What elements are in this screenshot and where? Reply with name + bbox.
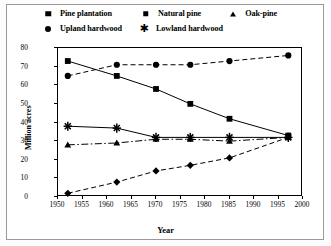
x-tick-label: 1990 [246,200,261,209]
y-tick-label: 40 [0,117,28,126]
y-tick-label: 10 [0,173,28,182]
y-tick-mark [54,140,57,141]
x-tick-label: 1985 [221,200,236,209]
x-tick-mark [229,196,230,199]
legend-marker-circle-icon [38,23,58,34]
x-tick-label: 1965 [123,200,138,209]
series-canvas [58,48,303,197]
legend-item-natural-pine[interactable]: Natural pine [136,8,201,19]
y-tick-mark [54,103,57,104]
x-tick-mark [57,196,58,199]
plot-area [57,47,302,196]
series-oak-pine [64,134,291,147]
x-tick-label: 1955 [74,200,89,209]
y-tick-mark [54,159,57,160]
legend-label-natural-pine: Natural pine [158,9,201,18]
legend-label-pine-plantation: Pine plantation [60,9,112,18]
legend-row-2: Upland hardwood ✱ Lowland hardwood [8,21,308,36]
legend-marker-triangle-icon [223,8,243,19]
x-tick-mark [106,196,107,199]
x-tick-mark [82,196,83,199]
x-tick-label: 1950 [50,200,65,209]
legend-item-pine-plantation[interactable]: Pine plantation [38,8,112,19]
y-tick-mark [54,66,57,67]
legend-label-upland-hardwood: Upland hardwood [60,24,122,33]
y-tick-label: 70 [0,61,28,70]
legend-item-lowland-hardwood[interactable]: ✱ Lowland hardwood [134,23,223,34]
x-tick-mark [131,196,132,199]
legend-marker-star-icon: ✱ [134,23,154,34]
legend-row-1: Pine plantation Natural pine Oak-pine [8,6,308,21]
y-tick-mark [54,47,57,48]
x-tick-mark [180,196,181,199]
y-tick-label: 30 [0,136,28,145]
x-axis-label: Year [0,226,331,235]
x-tick-label: 1995 [270,200,285,209]
y-tick-label: 0 [0,192,28,201]
y-tick-label: 80 [0,43,28,52]
x-tick-label: 1980 [197,200,212,209]
x-tick-mark [278,196,279,199]
x-tick-mark [204,196,205,199]
legend: Pine plantation Natural pine Oak-pine [8,6,308,38]
x-tick-label: 2000 [295,200,310,209]
x-tick-mark [302,196,303,199]
legend-marker-diamond-icon [38,8,58,19]
legend-label-lowland-hardwood: Lowland hardwood [156,24,223,33]
legend-label-oak-pine: Oak-pine [245,9,277,18]
legend-item-upland-hardwood[interactable]: Upland hardwood [38,23,122,34]
x-tick-label: 1970 [148,200,163,209]
series-upland-hardwood [65,52,292,79]
series-natural-pine [65,58,291,138]
legend-item-oak-pine[interactable]: Oak-pine [223,8,277,19]
y-tick-mark [54,177,57,178]
x-tick-mark [155,196,156,199]
y-tick-label: 50 [0,98,28,107]
x-tick-mark [253,196,254,199]
y-tick-mark [54,84,57,85]
y-tick-mark [54,122,57,123]
x-tick-label: 1975 [172,200,187,209]
figure: Pine plantation Natural pine Oak-pine [0,0,331,246]
y-tick-label: 20 [0,154,28,163]
legend-marker-square-icon [136,8,156,19]
y-tick-label: 60 [0,80,28,89]
x-tick-label: 1960 [99,200,114,209]
